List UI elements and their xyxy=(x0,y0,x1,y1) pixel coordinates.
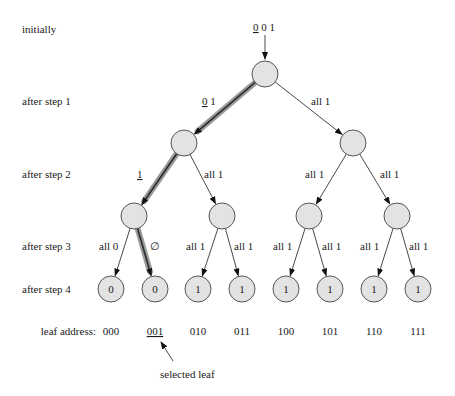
initial-input: 0 0 1 xyxy=(253,21,275,33)
leaf-value: 1 xyxy=(327,283,333,295)
edge-root-level1-0 xyxy=(195,82,255,133)
edge-level2-0-leaf-0 xyxy=(115,228,130,275)
edge-level2-1-leaf-2 xyxy=(202,228,218,275)
tree-node-root xyxy=(252,61,278,87)
edge-label-step3-6: all 1 xyxy=(360,240,379,252)
tree-node-level2-0 xyxy=(121,203,147,229)
leaf-value: 0 xyxy=(108,283,114,295)
leaf-address: 101 xyxy=(322,325,339,337)
edge-label-step2-0: 1 xyxy=(137,168,143,180)
row-label-step3: after step 3 xyxy=(22,240,71,252)
tree-node-level2-1 xyxy=(209,203,235,229)
initial-input-rest: 0 1 xyxy=(259,21,276,33)
edge-level2-0-leaf-1 xyxy=(138,228,152,275)
tree-node-level2-2 xyxy=(296,203,322,229)
leaf-address: 100 xyxy=(278,325,295,337)
row-label-step1: after step 1 xyxy=(22,95,71,107)
tree-node-level1-1 xyxy=(340,130,366,156)
leaf-value: 1 xyxy=(283,283,289,295)
leaf-value: 1 xyxy=(415,283,421,295)
tree-node-level2-3 xyxy=(384,203,410,229)
edge-label-step3-5: all 1 xyxy=(322,240,341,252)
edge-label-step3-4: all 1 xyxy=(273,240,292,252)
edge-label-step3-7: all 1 xyxy=(409,240,428,252)
leaf-address: 110 xyxy=(366,325,383,337)
leaf-address-selected: 001 xyxy=(147,325,164,337)
leaf-value: 1 xyxy=(239,283,245,295)
edge-level1-0-level2-0 xyxy=(142,154,177,205)
leaf-address-label: leaf address: xyxy=(41,325,96,337)
edge-level2-3-leaf-7 xyxy=(401,228,415,275)
edge-level2-2-leaf-5 xyxy=(313,228,327,275)
selected-leaf-label: selected leaf xyxy=(160,368,215,380)
edge-label-step1-left: 0 1 xyxy=(202,95,216,107)
edge-label-step2-2: all 1 xyxy=(305,168,324,180)
edge-root-level1-1 xyxy=(275,82,342,134)
leaf-address: 010 xyxy=(190,325,207,337)
edge-label-step3-1: ∅ xyxy=(150,240,160,252)
leaf-address: 000 xyxy=(103,325,120,337)
edge-level2-3-leaf-6 xyxy=(378,228,393,275)
edge-level2-2-leaf-4 xyxy=(290,228,305,275)
selected-leaf-arrow xyxy=(161,342,173,361)
row-label-initially: initially xyxy=(22,23,57,35)
edge-label-step2-1: all 1 xyxy=(204,168,223,180)
leaf-value: 0 xyxy=(152,283,158,295)
row-label-step2: after step 2 xyxy=(22,168,71,180)
leaf-value: 1 xyxy=(371,283,377,295)
edge-label-rest: 1 xyxy=(208,95,216,107)
tree-node-level1-0 xyxy=(171,130,197,156)
edge-label-step3-2: all 1 xyxy=(186,240,205,252)
edge-label-step3-0: all 0 xyxy=(99,240,119,252)
binary-tree-diagram: initially after step 1 after step 2 afte… xyxy=(0,0,455,396)
edge-label-step1-right: all 1 xyxy=(311,95,330,107)
leaf-addresses: 000001010011100101110111 xyxy=(103,325,426,337)
leaf-value: 1 xyxy=(195,283,201,295)
leaf-address: 011 xyxy=(234,325,250,337)
edge-label-step3-3: all 1 xyxy=(234,240,253,252)
leaf-address: 111 xyxy=(410,325,426,337)
row-label-step4: after step 4 xyxy=(22,283,71,295)
edge-level2-1-leaf-3 xyxy=(225,229,238,276)
edge-label-step2-3: all 1 xyxy=(380,168,399,180)
